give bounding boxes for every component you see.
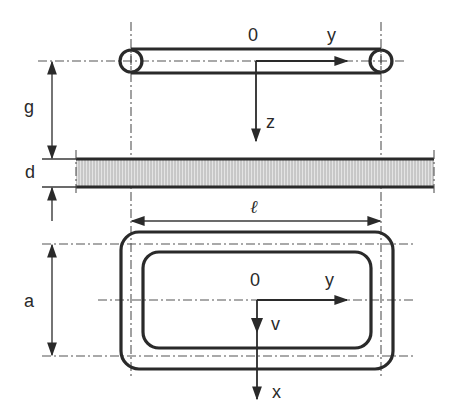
conducting-plate xyxy=(76,159,434,187)
side-y-axis-label: y xyxy=(327,25,336,45)
coil-plate-diagram: 0 y z g d ℓ a 0 y v xyxy=(0,0,461,416)
width-label: a xyxy=(24,291,35,311)
gap-label: g xyxy=(24,97,34,117)
velocity-label: v xyxy=(271,314,280,334)
plan-y-axis-label: y xyxy=(325,270,334,290)
plan-x-axis-label: x xyxy=(272,382,281,402)
side-z-axis-label: z xyxy=(266,112,275,132)
side-origin-label: 0 xyxy=(248,25,258,45)
velocity-arrowhead xyxy=(251,318,263,333)
plan-origin-label: 0 xyxy=(250,270,260,290)
plan-view: a 0 y v x xyxy=(24,232,414,402)
side-view: 0 y z g d ℓ xyxy=(24,25,434,221)
thickness-label: d xyxy=(25,162,35,182)
length-label: ℓ xyxy=(250,196,258,217)
